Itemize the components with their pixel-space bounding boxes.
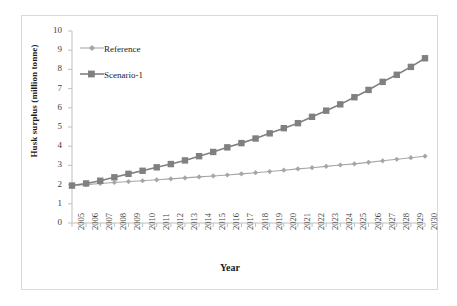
x-tick-label: 2011: [161, 213, 171, 230]
legend-label-reference: Reference: [104, 44, 140, 54]
x-tick-label: 2024: [344, 213, 354, 230]
legend-marker-square: [88, 71, 95, 78]
x-tick-label: 2015: [217, 213, 227, 230]
x-tick-label: 2009: [132, 213, 142, 230]
series-marker-diamond: [112, 180, 117, 185]
x-axis-title: Year: [120, 262, 340, 273]
series-marker-diamond: [366, 160, 371, 165]
x-tick-label: 2010: [147, 213, 157, 230]
x-tick-label: 2012: [175, 213, 185, 230]
x-tick-label: 2016: [231, 213, 241, 230]
series-marker-diamond: [196, 174, 201, 179]
series-marker-square: [168, 161, 174, 167]
series-marker-square: [422, 55, 428, 61]
x-tick-label: 2008: [118, 213, 128, 230]
series-marker-square: [309, 114, 315, 120]
series-marker-diamond: [380, 158, 385, 163]
x-tick-label: 2023: [330, 213, 340, 230]
series-marker-square: [111, 174, 117, 180]
series-marker-square: [125, 171, 131, 177]
y-tick-label: 10: [42, 25, 62, 35]
x-tick-label: 2029: [415, 213, 425, 230]
series-marker-square: [97, 178, 103, 184]
x-tick-label: 2026: [373, 213, 383, 230]
axis-lines: [72, 31, 425, 223]
series-marker-square: [281, 125, 287, 131]
series-marker-diamond: [295, 166, 300, 171]
series-marker-square: [154, 164, 160, 170]
x-tick-label: 2020: [288, 213, 298, 230]
x-tick-label: 2027: [387, 213, 397, 230]
y-tick-label: 3: [42, 159, 62, 169]
x-tick-label: 2030: [429, 213, 439, 230]
x-tick-label: 2021: [302, 213, 312, 230]
series-marker-square: [224, 144, 230, 150]
series-marker-diamond: [267, 169, 272, 174]
series-marker-diamond: [168, 176, 173, 181]
y-tick-label: 2: [42, 179, 62, 189]
x-tick-label: 2014: [203, 213, 213, 230]
series-marker-diamond: [422, 154, 427, 159]
y-tick-label: 8: [42, 63, 62, 73]
series-marker-square: [295, 120, 301, 126]
series-marker-square: [365, 87, 371, 93]
series-marker-square: [266, 130, 272, 136]
series-marker-square: [210, 149, 216, 155]
y-tick-label: 4: [42, 140, 62, 150]
series-marker-square: [379, 79, 385, 85]
series-marker-diamond: [352, 161, 357, 166]
x-tick-label: 2006: [90, 213, 100, 230]
x-tick-label: 2017: [245, 213, 255, 230]
y-tick-label: 7: [42, 83, 62, 93]
series-marker-square: [252, 135, 258, 141]
series-marker-diamond: [253, 170, 258, 175]
series-reference: [69, 154, 427, 189]
legend-label-scenario1: Scenario-1: [104, 70, 143, 80]
series-marker-diamond: [154, 177, 159, 182]
series-marker-square: [69, 182, 75, 188]
series-marker-square: [323, 107, 329, 113]
series-marker-diamond: [394, 157, 399, 162]
series-marker-square: [394, 72, 400, 78]
series-marker-diamond: [281, 168, 286, 173]
y-tick-label: 9: [42, 44, 62, 54]
y-tick-label: 1: [42, 198, 62, 208]
y-axis-title: Husk surplus (million tonne): [29, 21, 39, 181]
x-tick-label: 2005: [76, 213, 86, 230]
series-marker-square: [139, 168, 145, 174]
y-tick-label: 5: [42, 121, 62, 131]
series-marker-square: [408, 64, 414, 70]
series-marker-diamond: [182, 175, 187, 180]
legend-markers: [80, 45, 104, 77]
series-marker-square: [238, 140, 244, 146]
series-marker-square: [337, 101, 343, 107]
x-tick-label: 2019: [274, 213, 284, 230]
x-tick-label: 2007: [104, 213, 114, 230]
series-marker-square: [182, 157, 188, 163]
husk-surplus-line-chart: [0, 0, 457, 306]
x-tick-label: 2022: [316, 213, 326, 230]
legend-marker-diamond: [89, 45, 95, 51]
x-tick-label: 2013: [189, 213, 199, 230]
y-axis-tick-marks: [68, 31, 72, 223]
x-tick-label: 2018: [260, 213, 270, 230]
series-marker-diamond: [126, 179, 131, 184]
y-tick-label: 0: [42, 217, 62, 227]
series-marker-diamond: [239, 171, 244, 176]
series-marker-square: [83, 180, 89, 186]
series-marker-diamond: [225, 172, 230, 177]
series-marker-square: [196, 153, 202, 159]
x-tick-label: 2025: [358, 213, 368, 230]
series-marker-diamond: [338, 162, 343, 167]
series-marker-diamond: [309, 165, 314, 170]
x-tick-label: 2028: [401, 213, 411, 230]
series-marker-diamond: [211, 173, 216, 178]
series-line: [72, 156, 425, 185]
series-marker-square: [351, 94, 357, 100]
series-marker-diamond: [408, 155, 413, 160]
y-tick-label: 6: [42, 102, 62, 112]
series-marker-diamond: [140, 178, 145, 183]
series-marker-diamond: [324, 164, 329, 169]
